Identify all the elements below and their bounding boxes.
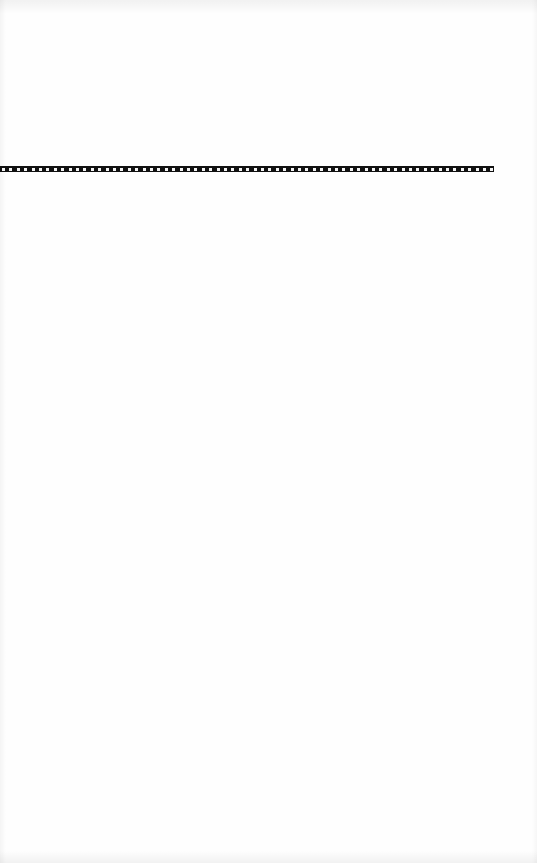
blank-document-page [0,0,537,863]
decorative-checkered-rule [0,166,494,172]
